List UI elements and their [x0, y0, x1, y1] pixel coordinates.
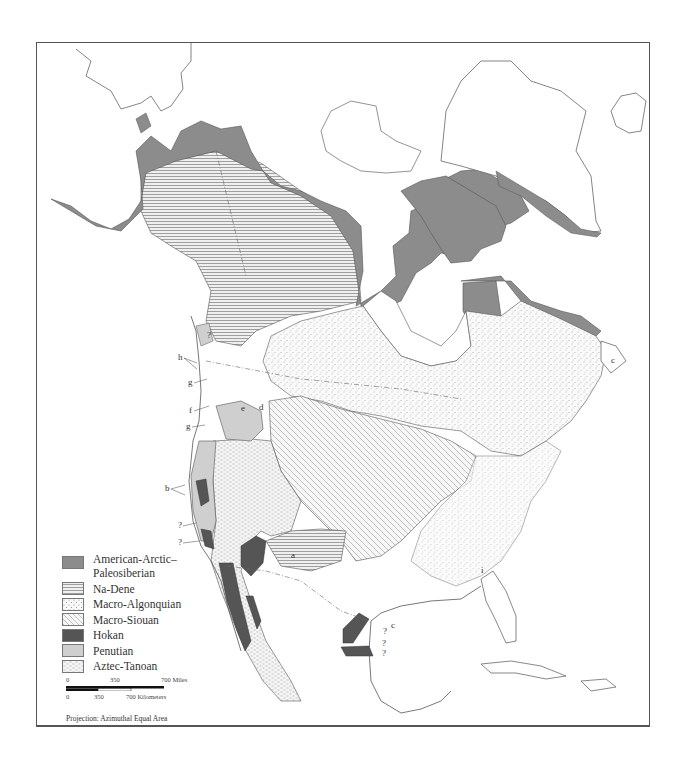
cuba: [481, 661, 566, 679]
legend-label: Macro-Siouan: [93, 613, 159, 627]
arctic-archipelago-outline: [321, 101, 421, 173]
hispaniola: [581, 679, 616, 691]
hokan-texas-coahuiltecan: [343, 613, 369, 643]
legend-item-aztec-tanoan: Aztec-Tanoan: [62, 659, 262, 675]
legend-label: Macro-Algonquian: [93, 597, 181, 611]
svg-text:b: b: [165, 483, 170, 493]
legend-label: Na-Dene: [93, 582, 135, 596]
swatch-dashes: [62, 660, 84, 673]
legend-label: Aztec-Tanoan: [93, 659, 157, 673]
svg-text:?: ?: [382, 648, 386, 658]
svg-text:g: g: [188, 377, 193, 387]
iceland-outline: [611, 93, 646, 133]
svg-text:?: ?: [383, 626, 387, 636]
scale-km-ticks: 0 350 700 Kilometers: [66, 693, 216, 702]
legend-label-line1: American-Arctic–: [93, 552, 177, 566]
chukotka-arctic-fill: [136, 113, 151, 133]
legend-item-penutian: Penutian: [62, 643, 262, 659]
map-legend: American-Arctic– Paleosiberian Na-Dene M…: [62, 552, 262, 674]
penutian-plateau: [216, 401, 263, 441]
legend-item-american-arctic-paleosiberian: American-Arctic– Paleosiberian: [62, 552, 262, 581]
svg-text:c: c: [391, 620, 395, 630]
svg-text:c: c: [611, 355, 615, 365]
legend-label: Hokan: [93, 628, 124, 642]
legend-label-line2: Paleosiberian: [93, 566, 177, 580]
legend-item-macro-algonquian: Macro-Algonquian: [62, 597, 262, 613]
svg-text:e: e: [241, 403, 245, 413]
svg-text:?: ?: [382, 638, 386, 648]
scale-tick: 700 Kilometers: [126, 693, 166, 700]
svg-text:g: g: [186, 421, 191, 431]
swatch-diagonal-lines: [62, 613, 84, 626]
scale-bar: 0 350 700 Miles 0 350 700 Kilometers: [66, 676, 216, 702]
swatch-solid-light-gray: [62, 644, 84, 657]
scale-tick: 350: [94, 693, 104, 700]
scale-tick: 700 Miles: [161, 676, 187, 683]
siberia-coastline: [76, 43, 191, 111]
svg-text:a: a: [291, 550, 295, 560]
swatch-solid-dark: [62, 629, 84, 642]
legend-label: Penutian: [93, 644, 133, 658]
svg-text:h: h: [178, 352, 183, 362]
scale-tick: 350: [110, 676, 120, 683]
scale-miles-ticks: 0 350 700 Miles: [66, 676, 216, 685]
svg-text:f: f: [189, 405, 192, 415]
svg-text:d: d: [259, 402, 264, 412]
scale-bar-graphic: [66, 686, 216, 691]
svg-text:?: ?: [178, 537, 182, 547]
swatch-solid-gray: [62, 556, 84, 569]
florida: [481, 571, 516, 643]
legend-item-na-dene: Na-Dene: [62, 581, 262, 597]
scale-tick: 0: [66, 676, 69, 683]
svg-text:?: ?: [178, 520, 182, 530]
swatch-horizontal-lines: [62, 582, 84, 595]
scale-tick: 0: [66, 693, 69, 700]
legend-item-hokan: Hokan: [62, 628, 262, 644]
projection-label: Projection: Azimuthal Equal Area: [66, 714, 167, 723]
hokan-tamaulipas: [341, 646, 373, 656]
svg-text:?: ?: [207, 330, 211, 340]
legend-item-macro-siouan: Macro-Siouan: [62, 612, 262, 628]
swatch-stipple-dots: [62, 598, 84, 611]
na-dene-southwest: [266, 529, 346, 571]
